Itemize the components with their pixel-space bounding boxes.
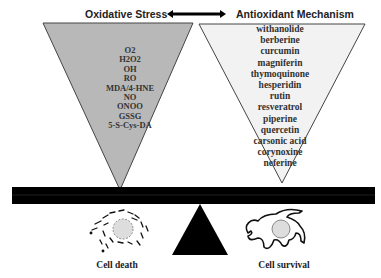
list-item: carsonic acid (210, 136, 350, 147)
list-item: curcumin (210, 46, 350, 57)
balance-beam (12, 187, 375, 204)
balance-diagram: Oxidative Stress Antioxidant Mechanism O… (0, 0, 381, 278)
list-item: hesperidin (210, 80, 350, 91)
oxidative-stress-title: Oxidative Stress (85, 8, 167, 20)
antioxidant-list: withanolide berberine curcumin magniferi… (210, 24, 350, 170)
living-cell-icon (246, 210, 304, 249)
list-item: 5-S-Cys-DA (60, 121, 200, 130)
dead-cell-icon (90, 210, 148, 252)
list-item: piperine (210, 114, 350, 125)
list-item: rutin (210, 91, 350, 102)
list-item: withanolide (210, 24, 350, 35)
double-arrow-icon (167, 10, 226, 18)
list-item: thymoquinone (210, 69, 350, 80)
list-item: quercetin (210, 125, 350, 136)
cell-survival-label: Cell survival (234, 260, 334, 270)
list-item: resveratrol (210, 102, 350, 113)
oxidative-stress-list: O2 H2O2 OH RO MDA/4-HNE NO ONOO GSSG 5-S… (60, 46, 200, 131)
fulcrum-triangle (172, 204, 228, 255)
list-item: berberine (210, 35, 350, 46)
cell-death-label: Cell death (67, 260, 167, 270)
list-item: magniferin (210, 58, 350, 69)
list-item: neferine (210, 158, 350, 169)
antioxidant-mechanism-title: Antioxidant Mechanism (236, 8, 354, 20)
list-item: corynoxine (210, 147, 350, 158)
